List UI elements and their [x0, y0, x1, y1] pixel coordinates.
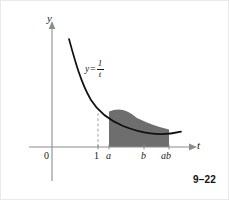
- tick-label-a: a: [106, 151, 111, 161]
- t-axis-arrowhead: [189, 144, 197, 151]
- curve-equation-label: y = 1 t: [85, 59, 104, 79]
- equation-fraction: 1 t: [97, 59, 104, 79]
- tick-label-b: b: [141, 151, 146, 161]
- plot-canvas: [1, 1, 229, 200]
- equation-equals-sign: =: [90, 64, 95, 74]
- figure-number-caption: 9–22: [193, 174, 216, 185]
- equation-left-side: y: [85, 64, 89, 74]
- t-axis-label: t: [197, 140, 200, 151]
- y-axis-label: y: [47, 13, 52, 24]
- tick-label-ab: ab: [161, 151, 171, 161]
- figure-container: y t 0 1 a b ab y = 1 t 9–22: [0, 0, 229, 200]
- shaded-area-precise: [109, 109, 169, 147]
- tick-label-1: 1: [94, 151, 99, 161]
- fraction-numerator: 1: [97, 59, 104, 69]
- origin-label: 0: [44, 151, 49, 161]
- fraction-denominator: t: [98, 70, 103, 80]
